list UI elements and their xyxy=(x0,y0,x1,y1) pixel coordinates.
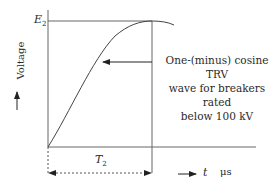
y-axis-label: Voltage xyxy=(15,44,26,80)
trv-curve xyxy=(48,21,174,147)
curve-annotation: One-(minus) cosine TRV wave for breakers… xyxy=(158,53,276,123)
x-axis-variable: t xyxy=(203,166,207,179)
x-axis-unit: μs xyxy=(220,166,232,177)
peak-voltage-label: E2 xyxy=(34,13,47,28)
t2-label: T2 xyxy=(95,153,107,168)
